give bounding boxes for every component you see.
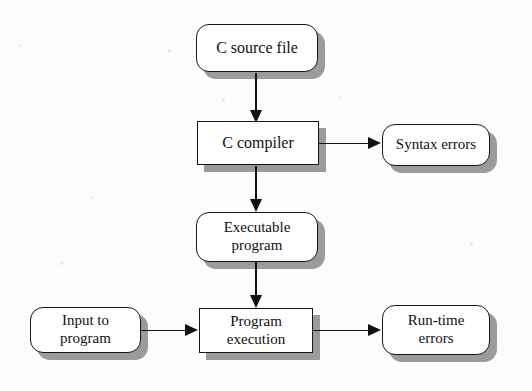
paper-speck (18, 44, 21, 47)
node-label: Syntax errors (392, 136, 480, 154)
node-label: Executable program (220, 219, 295, 254)
paper-speck (168, 49, 171, 53)
node-label: C source file (212, 39, 302, 58)
paper-speck (60, 262, 63, 265)
node-program-execution[interactable]: Program execution (199, 308, 313, 353)
flowchart-diagram: C source file C compiler Syntax errors E… (0, 0, 532, 391)
arrowhead-executable-to-execution (250, 295, 262, 308)
paper-speck (91, 196, 94, 199)
node-run-time-errors[interactable]: Run-time errors (382, 305, 490, 355)
edge-compiler-to-syntax-errors (313, 143, 370, 145)
arrowhead-execution-to-runtime-errors (368, 324, 381, 336)
arrowhead-input-to-execution (185, 324, 198, 336)
node-c-source-file[interactable]: C source file (196, 24, 318, 72)
paper-speck (470, 242, 473, 245)
node-syntax-errors[interactable]: Syntax errors (382, 124, 490, 166)
node-executable-program[interactable]: Executable program (196, 212, 318, 262)
node-c-compiler[interactable]: C compiler (197, 121, 319, 165)
edge-compiler-to-executable (255, 166, 257, 202)
arrowhead-compiler-to-executable (250, 199, 262, 212)
edge-source-to-compiler (255, 73, 257, 112)
paper-speck (338, 96, 341, 99)
node-label: Run-time errors (404, 312, 469, 347)
edge-execution-to-runtime-errors (313, 330, 370, 332)
paper-speck (222, 99, 225, 102)
node-label: C compiler (218, 134, 298, 153)
arrowhead-source-to-compiler (250, 110, 262, 123)
node-label: Program execution (223, 313, 289, 348)
edge-executable-to-execution (255, 262, 257, 298)
node-label: Input to program (56, 312, 115, 347)
node-input-to-program[interactable]: Input to program (30, 307, 141, 353)
arrowhead-compiler-to-syntax-errors (368, 137, 381, 149)
edge-input-to-execution (141, 330, 187, 332)
